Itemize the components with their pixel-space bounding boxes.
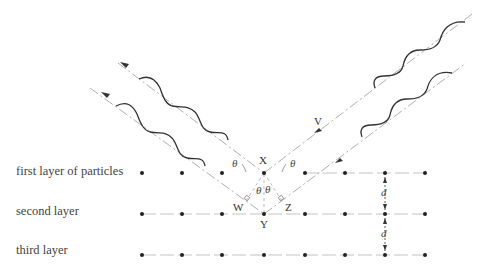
incident-arrowheads	[101, 62, 129, 98]
bragg-diffraction-diagram: first layer of particles second layer th…	[0, 0, 488, 278]
reflected-beam-lower	[264, 63, 466, 214]
spacing-label-d-1: d	[381, 186, 387, 198]
perpendiculars	[246, 173, 282, 214]
particles	[140, 171, 427, 257]
second-layer-particles	[140, 212, 427, 216]
reflected-wave-upper	[374, 22, 465, 88]
label-first-layer: first layer of particles	[16, 164, 123, 179]
arrow-icon	[120, 62, 129, 68]
third-layer-particles	[140, 253, 427, 257]
angle-label-inner-left: θ	[256, 184, 261, 196]
first-layer-particles	[140, 171, 427, 175]
angle-label-inner-right: θ	[265, 183, 270, 195]
arrow-up-icon	[383, 218, 387, 224]
angle-label-incident: θ	[232, 157, 237, 169]
angle-label-reflected: θ	[290, 157, 295, 169]
incident-beam-upper	[118, 63, 264, 173]
point-label-x: X	[259, 154, 267, 166]
arrow-icon	[335, 158, 343, 163]
angle-arc-reflected	[282, 164, 286, 172]
point-label-y: Y	[260, 218, 268, 230]
incident-waves	[116, 77, 228, 166]
arrow-up-icon	[383, 177, 387, 183]
arrow-icon	[101, 92, 110, 98]
label-second-layer: second layer	[16, 204, 79, 219]
incident-wave-upper	[139, 77, 228, 140]
spacing-label-d-2: d	[381, 227, 387, 239]
label-third-layer: third layer	[16, 243, 68, 258]
arrow-down-icon	[383, 245, 387, 251]
point-label-z: Z	[285, 201, 292, 213]
reflected-beams	[264, 14, 472, 214]
arrow-down-icon	[383, 204, 387, 210]
arrow-icon	[314, 128, 322, 133]
incident-wave-lower	[116, 104, 205, 166]
angle-arc-incident	[242, 164, 246, 172]
incident-beams	[90, 63, 264, 214]
reflected-waves	[361, 22, 465, 137]
diagram-canvas	[0, 0, 488, 278]
point-label-w: W	[233, 201, 243, 213]
point-label-v: V	[314, 115, 322, 127]
